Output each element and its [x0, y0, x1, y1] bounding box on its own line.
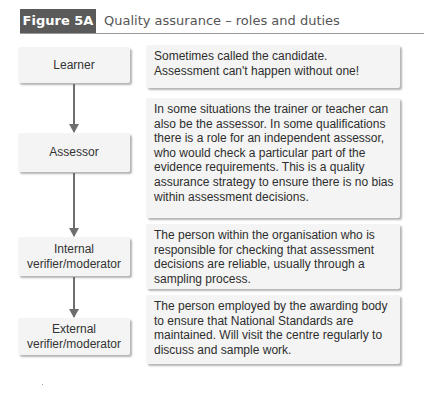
scan-speck — [42, 384, 43, 385]
role-box-assessor: Assessor — [18, 133, 130, 172]
role-description: The person employed by the awarding body… — [154, 299, 387, 357]
figure-label: Figure 5A — [20, 9, 96, 33]
description-box-internal-verifier: The person within the organisation who i… — [146, 224, 400, 289]
role-box-learner: Learner — [18, 47, 130, 83]
role-box-internal-verifier: Internal verifier/moderator — [18, 237, 130, 276]
role-box-external-verifier: External verifier/moderator — [18, 318, 130, 355]
role-label: External verifier/moderator — [22, 322, 126, 352]
role-label: Learner — [53, 58, 94, 73]
arrow-down-icon — [73, 277, 75, 317]
role-description: The person within the organisation who i… — [154, 228, 375, 286]
arrow-down-icon — [73, 84, 75, 132]
role-label: Internal verifier/moderator — [22, 242, 126, 272]
role-description: Sometimes called the candidate. Assessme… — [154, 49, 359, 78]
figure-title: Quality assurance – roles and duties — [104, 9, 340, 33]
figure-header: Figure 5A Quality assurance – roles and … — [20, 9, 424, 34]
role-description: In some situations the trainer or teache… — [154, 102, 393, 204]
description-box-learner: Sometimes called the candidate. Assessme… — [146, 45, 400, 88]
description-box-assessor: In some situations the trainer or teache… — [146, 98, 400, 218]
arrow-down-icon — [73, 173, 75, 236]
role-label: Assessor — [49, 145, 98, 160]
description-box-external-verifier: The person employed by the awarding body… — [146, 295, 400, 364]
